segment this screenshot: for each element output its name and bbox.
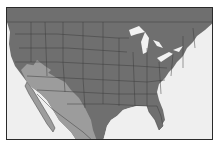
range-map <box>7 8 213 140</box>
map-frame <box>6 7 213 140</box>
